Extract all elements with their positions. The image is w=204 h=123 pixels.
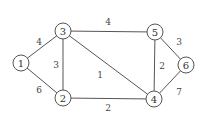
edge-weight-6-4: 7 [176, 87, 182, 97]
edge-weight-5-6: 3 [176, 37, 182, 47]
weighted-graph: 463412237 123456 [0, 0, 204, 123]
edge-weight-3-2: 3 [53, 60, 59, 70]
edge-weight-1-2: 6 [36, 85, 42, 95]
node-6: 6 [178, 57, 194, 73]
node-3: 3 [55, 23, 71, 39]
edge-2-4 [63, 98, 154, 99]
edge-3-4 [63, 31, 154, 99]
edge-weight-1-3: 4 [36, 37, 42, 47]
node-label: 1 [18, 58, 24, 69]
edge-5-4 [154, 32, 155, 99]
node-label: 2 [60, 93, 66, 104]
edge-weight-3-5: 4 [105, 17, 111, 27]
node-label: 5 [152, 27, 158, 38]
node-label: 4 [151, 94, 157, 105]
node-5: 5 [147, 24, 163, 40]
edge-3-5 [63, 31, 155, 32]
node-label: 3 [60, 26, 66, 37]
node-4: 4 [146, 91, 162, 107]
edge-weight-3-4: 1 [97, 70, 103, 80]
node-label: 6 [183, 60, 189, 71]
edge-weight-2-4: 2 [105, 103, 111, 113]
edge-weight-5-4: 2 [159, 61, 165, 71]
node-1: 1 [13, 55, 29, 71]
node-2: 2 [55, 90, 71, 106]
